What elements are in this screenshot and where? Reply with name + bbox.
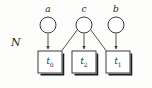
- variable-node-a[interactable]: [40, 17, 56, 33]
- edge-c-to-t1: [91, 30, 107, 51]
- factor-label-t1-sub: 1: [118, 61, 122, 68]
- variable-node-group: [40, 17, 124, 33]
- variable-label-a: a: [40, 4, 56, 14]
- factor-label-t0-sub: 0: [50, 61, 54, 68]
- variable-label-b: b: [108, 4, 124, 14]
- variable-node-b[interactable]: [108, 17, 124, 33]
- factor-label-t1: t1: [106, 57, 130, 68]
- factor-label-t2-sub: 2: [84, 61, 88, 68]
- factor-label-t2: t2: [72, 57, 96, 68]
- factor-label-t0: t0: [38, 57, 62, 68]
- variable-node-c[interactable]: [76, 17, 92, 33]
- variable-label-c: c: [76, 4, 92, 14]
- edge-c-to-t0: [62, 30, 78, 51]
- plate-label-n: N: [11, 36, 21, 49]
- diagram-canvas: N a c b t0 t2 t1: [0, 0, 152, 88]
